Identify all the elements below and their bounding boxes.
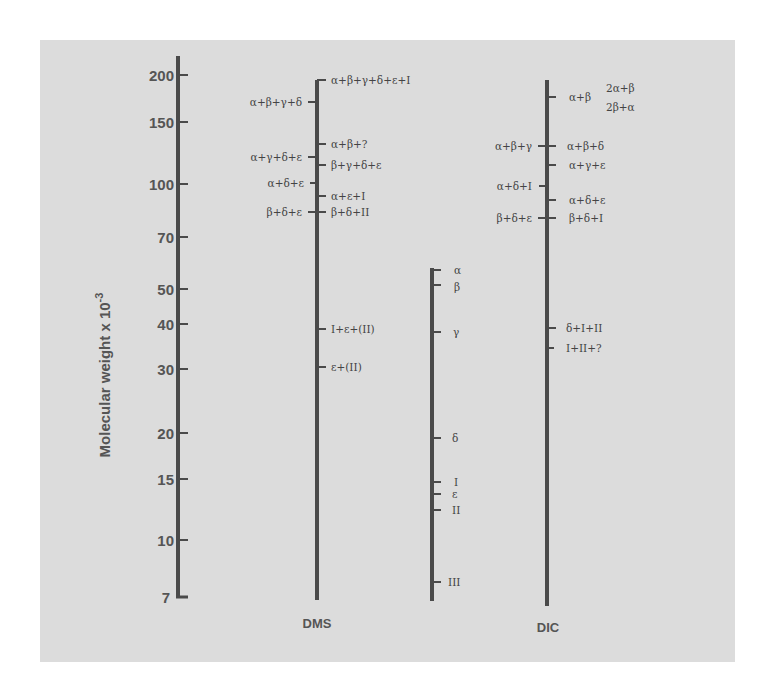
band-label: α+β <box>569 91 591 103</box>
dic-column: α+β 2α+β 2β+α α+β+γ α+β+δ α+γ+ε α+δ+I α+… <box>495 80 635 635</box>
band-label: α+β+? <box>331 138 368 150</box>
band-label: β <box>454 281 460 293</box>
band-label: III <box>448 576 460 588</box>
annotation: 2α+β <box>606 82 635 94</box>
svg-text:70: 70 <box>157 229 174 246</box>
svg-text:7: 7 <box>162 589 170 606</box>
band-label: I <box>454 476 458 488</box>
subunit-column: α β γ δ I ε II III <box>432 264 461 601</box>
band-label: I+II+? <box>566 342 602 354</box>
y-axis <box>176 56 188 598</box>
band-label: β+δ+ε <box>267 206 302 218</box>
band-label: β+δ+ε <box>497 212 532 224</box>
svg-text:Molecular weight x 10-3: Molecular weight x 10-3 <box>93 293 113 458</box>
svg-text:30: 30 <box>157 361 174 378</box>
band-label: β+δ+II <box>331 206 369 218</box>
band-label: δ+I+II <box>566 322 602 334</box>
svg-text:20: 20 <box>157 425 174 442</box>
svg-text:50: 50 <box>157 281 174 298</box>
band-label: β+γ+δ+ε <box>331 159 382 171</box>
band-label: α+ε+I <box>331 190 365 202</box>
band-label: α+β+γ+δ+ε+I <box>331 74 410 86</box>
band-label: α+δ+ε <box>569 194 605 206</box>
band-label: ε+(II) <box>331 361 362 373</box>
svg-text:200: 200 <box>149 67 174 84</box>
band-label: α+δ+ε <box>268 177 304 189</box>
band-label: α+β+γ+δ <box>250 96 302 108</box>
band-label: I+ε+(II) <box>331 323 375 335</box>
svg-text:100: 100 <box>149 176 174 193</box>
band-label: ε <box>452 488 457 500</box>
band-label: α+β+δ <box>567 140 604 152</box>
band-label: β+δ+I <box>569 212 603 224</box>
dic-label: DIC <box>537 620 560 635</box>
band-label: γ <box>453 326 459 338</box>
y-tick-labels: 200 150 100 70 50 40 30 20 15 10 7 <box>149 67 174 606</box>
band-label: α+γ+δ+ε <box>250 151 302 163</box>
band-label: α+γ+ε <box>569 159 605 171</box>
molecular-weight-chart: Molecular weight x 10-3 200 150 100 70 5… <box>0 0 770 692</box>
svg-text:15: 15 <box>157 471 174 488</box>
band-label: α+δ+I <box>497 180 532 192</box>
y-axis-label: Molecular weight x 10-3 <box>93 293 113 458</box>
dms-column: α+β+γ+δ+ε+I α+β+γ+δ α+β+? α+γ+δ+ε β+γ+δ+… <box>250 74 411 631</box>
svg-text:10: 10 <box>157 532 174 549</box>
dms-label: DMS <box>303 616 332 631</box>
band-label: II <box>452 504 460 516</box>
band-label: δ <box>452 432 458 444</box>
svg-text:150: 150 <box>149 114 174 131</box>
annotation: 2β+α <box>606 101 635 113</box>
band-label: α <box>454 264 461 276</box>
band-label: α+β+γ <box>495 140 532 152</box>
svg-text:40: 40 <box>157 316 174 333</box>
